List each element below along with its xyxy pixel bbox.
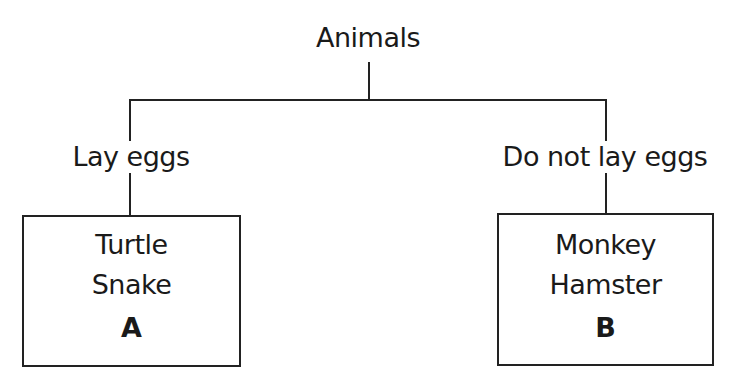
animal-hamster: Hamster — [549, 265, 661, 305]
animal-turtle: Turtle — [95, 225, 167, 265]
group-tag-a: A — [121, 305, 142, 351]
branch-connector — [130, 99, 607, 101]
root-stem — [368, 62, 370, 101]
group-tag-b: B — [595, 305, 616, 351]
group-box-a: Turtle Snake A — [22, 215, 241, 367]
animal-monkey: Monkey — [555, 225, 656, 265]
group-box-b: Monkey Hamster B — [497, 213, 714, 366]
branch-label-do-not-lay-eggs: Do not lay eggs — [494, 141, 716, 173]
branch-label-lay-eggs: Lay eggs — [62, 141, 200, 173]
animal-snake: Snake — [92, 265, 172, 305]
root-label: Animals — [308, 22, 428, 54]
